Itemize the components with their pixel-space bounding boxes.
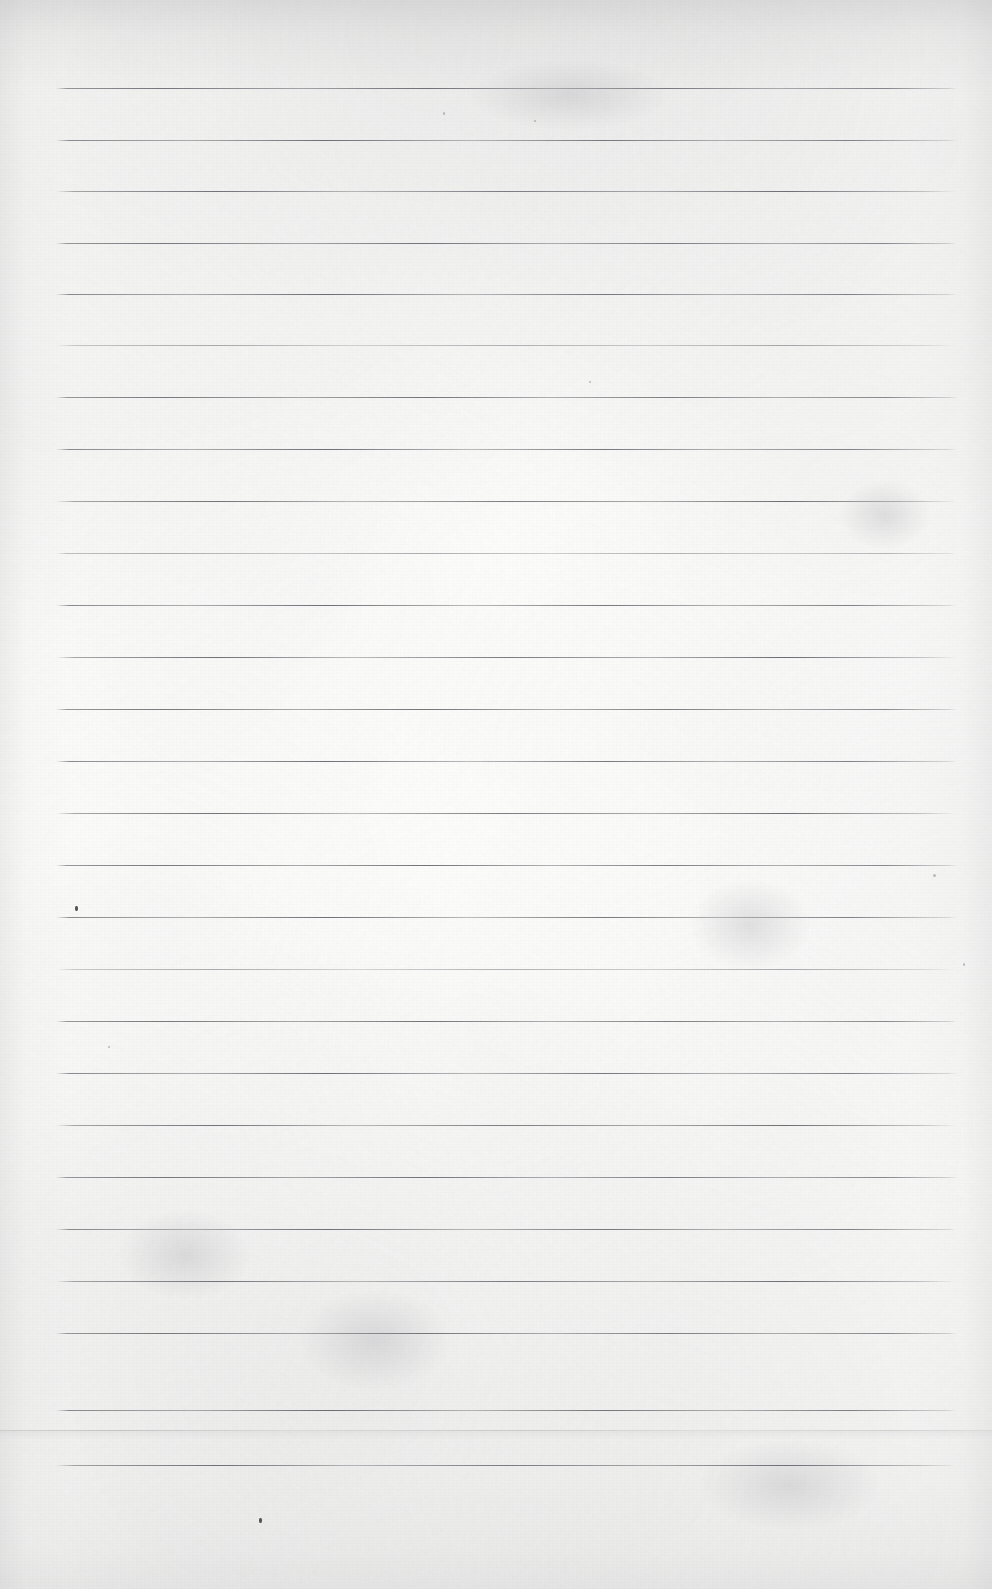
page-text-content bbox=[56, 88, 957, 1468]
scanned-ruled-page bbox=[0, 0, 992, 1589]
